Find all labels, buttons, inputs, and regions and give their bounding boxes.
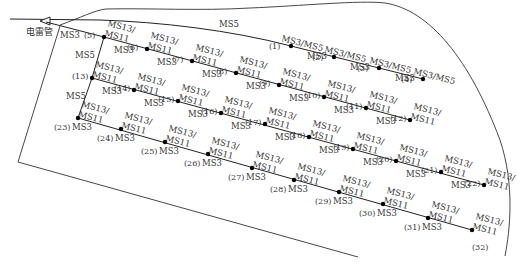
blast-hole: MS13/MS11(12): [390, 101, 442, 127]
hole-number: (31): [404, 223, 420, 232]
hole-number: (15): [158, 95, 174, 104]
hole-number: (27): [228, 173, 244, 182]
link-delay: MS3: [333, 196, 353, 206]
hole-number: (7): [172, 55, 183, 64]
blast-hole: MS13/MS11(31)MS3: [404, 199, 460, 232]
blasting-network-diagram: 电雷管 MS5 MS3 MS5 MS5 MS3/MS5(1)MS3MS3/MS5…: [0, 0, 523, 265]
hole-number: (10): [304, 91, 320, 100]
link-delay: MS3: [377, 208, 397, 218]
hole-number: (17): [245, 118, 261, 127]
hole-number: (23): [54, 123, 70, 132]
hole-number: (19): [333, 143, 349, 152]
hole-number: (20): [376, 155, 392, 164]
blast-hole: MS13/MS11(22): [464, 166, 516, 192]
hole-number: (26): [184, 159, 200, 168]
hole-number: (14): [114, 84, 130, 93]
link-delay: MS3: [422, 222, 442, 232]
hole-number: (4): [401, 75, 412, 84]
hole-number: (5): [84, 31, 95, 40]
hole-number: (13): [72, 72, 88, 81]
link-delay: MS3: [288, 184, 308, 194]
hole-number: (1): [269, 42, 280, 51]
hole-number: (11): [346, 102, 362, 111]
blast-holes: MS3/MS5(1)MS3MS3/MS5(2)MS3MS3/MS5(3)MS3M…: [54, 18, 516, 252]
blast-hole: MS13/MS11(23)MS3: [54, 99, 110, 132]
blast-hole: MS13/MS11(32): [470, 211, 505, 252]
detonator-label: 电雷管: [26, 26, 53, 37]
hole-number: (2): [312, 53, 323, 62]
link-delay: MS3: [159, 146, 179, 156]
hole-delay: MS3/MS5: [413, 66, 457, 86]
blast-hole: MS13/MS11(25)MS3: [141, 123, 197, 156]
hole-number: (22): [464, 179, 480, 188]
hole-number: (16): [201, 107, 217, 116]
hole-number: (12): [390, 114, 406, 123]
hole-number: (18): [289, 131, 305, 140]
link-delay: MS3: [115, 133, 135, 143]
hole-number: (25): [141, 147, 157, 156]
hole-number: (3): [357, 64, 368, 73]
hole-number: (9): [259, 79, 270, 88]
hole-number: (32): [472, 243, 488, 252]
connector-label-5-13: MS5: [75, 50, 95, 60]
link-delay: MS3: [202, 158, 222, 168]
hole-number: (8): [216, 67, 227, 76]
blast-hole: MS13/MS11(29)MS3: [315, 173, 371, 206]
hole-number: (30): [359, 209, 375, 218]
excavation-outline-left: [18, 26, 60, 162]
hole-number: (28): [270, 185, 286, 194]
detonator-icon: [40, 17, 50, 25]
hole-number: (6): [127, 43, 138, 52]
blast-hole: MS13/MS11(26)MS3: [184, 135, 240, 168]
blast-hole: MS13/MS11(28)MS3: [270, 161, 326, 194]
blast-hole: MS13/MS11(27)MS3: [228, 149, 284, 182]
blast-hole: MS13/MS11(30)MS3: [359, 185, 415, 218]
hole-number: (24): [97, 134, 113, 143]
link-delay: MS3: [72, 122, 92, 132]
trunk-label-top: MS5: [219, 19, 239, 29]
link-delay: MS3: [246, 172, 266, 182]
trunk-label-start: MS3: [60, 30, 80, 40]
hole-number: (21): [421, 166, 437, 175]
hole-number: (29): [315, 197, 331, 206]
